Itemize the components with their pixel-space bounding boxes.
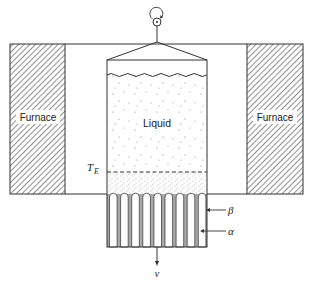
furnace-right: Furnace — [247, 44, 303, 194]
eutectic-temp-label: T E — [87, 161, 99, 176]
furnace-right-label: Furnace — [257, 112, 294, 123]
furnace-left-label: Furnace — [20, 112, 57, 123]
crucible-hanger — [107, 42, 207, 60]
beta-phase-pointer: β — [206, 204, 234, 216]
svg-text:E: E — [93, 167, 99, 176]
rotation-arrow-icon — [150, 7, 163, 42]
lamellar-solid — [107, 193, 207, 247]
crucible: Liquid — [107, 60, 207, 247]
furnace-left: Furnace — [10, 44, 65, 194]
velocity-label: v — [155, 268, 160, 279]
svg-text:T: T — [87, 161, 94, 173]
down-arrow-icon — [155, 247, 159, 266]
liquid-label: Liquid — [143, 117, 171, 129]
beta-label: β — [227, 204, 234, 216]
eutectic-solidification-diagram: Furnace Furnace Liquid — [0, 0, 311, 287]
alpha-label: α — [228, 225, 234, 237]
